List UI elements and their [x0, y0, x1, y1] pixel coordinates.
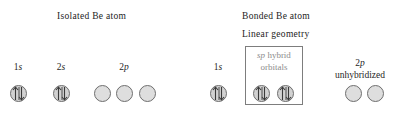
electron-spin-down-arrow-icon — [261, 86, 268, 101]
sp-hybrid-caption-line-1: sp hybrid — [246, 50, 302, 60]
electron-spin-down-arrow-icon — [285, 86, 292, 101]
shell-label-1s-bonded: 1s — [214, 62, 222, 72]
orbital-2p-isolated-2 — [116, 85, 133, 102]
electron-spin-down-arrow-icon — [18, 86, 25, 101]
orbital-1s-isolated — [10, 85, 27, 102]
bonded-atom-title: Bonded Be atom — [242, 11, 310, 21]
orbital-2p-isolated-3 — [139, 85, 156, 102]
shell-label-2p-unhybridized-sub: unhybridized — [335, 70, 385, 80]
electron-spin-up-arrow-icon — [55, 86, 62, 101]
isolated-atom-title: Isolated Be atom — [57, 11, 126, 21]
orbital-2p-isolated-1 — [94, 85, 111, 102]
electron-spin-up-arrow-icon — [12, 86, 19, 101]
shell-label-2s-isolated: 2s — [57, 62, 65, 72]
electron-spin-up-arrow-icon — [212, 86, 219, 101]
orbital-sp-hybrid-2 — [277, 85, 294, 102]
electron-spin-down-arrow-icon — [218, 86, 225, 101]
electron-spin-up-arrow-icon — [279, 86, 286, 101]
geometry-title: Linear geometry — [242, 29, 310, 39]
electron-spin-up-arrow-icon — [255, 86, 262, 101]
shell-label-1s-isolated: 1s — [14, 62, 22, 72]
orbital-sp-hybrid-1 — [253, 85, 270, 102]
orbital-diagram-figure: Isolated Be atom Bonded Be atom Linear g… — [0, 0, 399, 113]
orbital-2p-unhybridized-2 — [367, 85, 384, 102]
shell-label-2p-isolated: 2p — [119, 62, 129, 72]
electron-spin-down-arrow-icon — [61, 86, 68, 101]
sp-hybrid-caption-line-2: orbitals — [246, 62, 302, 72]
orbital-2s-isolated — [53, 85, 70, 102]
orbital-1s-bonded — [210, 85, 227, 102]
orbital-2p-unhybridized-1 — [345, 85, 362, 102]
shell-label-2p-unhybridized: 2p — [355, 58, 365, 68]
